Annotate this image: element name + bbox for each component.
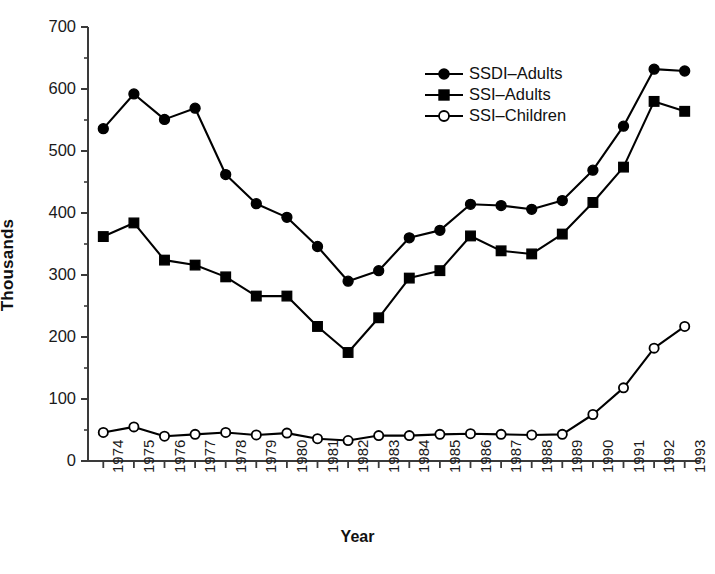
legend-marker-open-circle <box>424 107 464 125</box>
y-tick-label: 600 <box>30 79 76 98</box>
data-point <box>160 114 170 124</box>
y-tick-label: 500 <box>30 141 76 160</box>
data-point <box>435 430 444 439</box>
data-point <box>160 255 170 265</box>
data-point <box>496 246 506 256</box>
data-point <box>405 431 414 440</box>
legend-item: SSI–Children <box>424 105 566 126</box>
legend-marker-filled-circle <box>424 65 464 83</box>
x-tick-label: 1988 <box>538 440 555 473</box>
data-point <box>252 430 261 439</box>
data-point <box>374 313 384 323</box>
series-ssi-adults <box>99 97 690 358</box>
data-point <box>98 124 108 134</box>
x-tick-label: 1989 <box>568 440 585 473</box>
data-point <box>190 103 200 113</box>
data-point <box>650 344 659 353</box>
data-point <box>557 196 567 206</box>
legend-item: SSDI–Adults <box>424 63 566 84</box>
x-tick-label: 1975 <box>140 440 157 473</box>
x-axis-title: Year <box>0 528 715 546</box>
data-point <box>99 428 108 437</box>
data-point <box>619 383 628 392</box>
data-point <box>649 97 659 107</box>
x-tick-label: 1985 <box>446 440 463 473</box>
data-point <box>252 291 262 301</box>
legend-label-ssi-adults: SSI–Adults <box>469 84 551 105</box>
y-tick-label: 0 <box>30 451 76 470</box>
legend-marker-filled-square <box>424 86 464 104</box>
y-tick-label: 100 <box>30 389 76 408</box>
x-tick-label: 1974 <box>109 440 126 473</box>
series-ssdi-adults <box>98 64 689 286</box>
data-point <box>680 66 690 76</box>
data-series-layer <box>98 64 689 445</box>
data-point <box>496 201 506 211</box>
x-tick-label: 1993 <box>691 440 708 473</box>
y-tick-label: 400 <box>30 203 76 222</box>
data-point <box>680 322 689 331</box>
data-point <box>680 107 690 117</box>
data-point <box>435 266 445 276</box>
x-tick-label: 1990 <box>599 440 616 473</box>
y-tick-label: 300 <box>30 265 76 284</box>
data-point <box>527 430 536 439</box>
y-tick-label: 700 <box>30 17 76 36</box>
x-tick-label: 1978 <box>232 440 249 473</box>
data-point <box>405 273 415 283</box>
data-point <box>374 266 384 276</box>
data-point <box>374 431 383 440</box>
data-point <box>527 249 537 259</box>
series-ssi-children <box>99 322 690 445</box>
data-point <box>619 162 629 172</box>
data-point <box>527 204 537 214</box>
data-point <box>404 233 414 243</box>
legend-label-ssdi-adults: SSDI–Adults <box>469 63 563 84</box>
x-tick-label: 1987 <box>507 440 524 473</box>
data-point <box>129 89 139 99</box>
x-tick-label: 1992 <box>660 440 677 473</box>
x-tick-label: 1984 <box>415 440 432 473</box>
data-point <box>313 434 322 443</box>
x-tick-label: 1977 <box>201 440 218 473</box>
data-point <box>99 232 109 242</box>
figure-chart: Thousands Year 0100200300400500600700 19… <box>0 0 715 574</box>
data-point <box>466 231 476 241</box>
data-point <box>588 165 598 175</box>
x-tick-label: 1986 <box>477 440 494 473</box>
x-tick-label: 1982 <box>354 440 371 473</box>
data-point <box>282 291 292 301</box>
x-tick-label: 1979 <box>262 440 279 473</box>
data-point <box>588 410 597 419</box>
x-tick-label: 1976 <box>171 440 188 473</box>
data-point <box>435 225 445 235</box>
y-tick-label: 200 <box>30 327 76 346</box>
data-point <box>343 276 353 286</box>
data-point <box>129 422 138 431</box>
chart-legend: SSDI–Adults SSI–Adults SSI–Children <box>424 63 566 126</box>
legend-item: SSI–Adults <box>424 84 566 105</box>
data-point <box>129 218 139 228</box>
data-point <box>313 322 323 332</box>
x-tick-label: 1980 <box>293 440 310 473</box>
data-point <box>313 241 323 251</box>
data-point <box>558 430 567 439</box>
data-point <box>466 429 475 438</box>
data-point <box>221 428 230 437</box>
plot-area <box>0 0 715 574</box>
data-point <box>649 64 659 74</box>
data-point <box>282 212 292 222</box>
legend-label-ssi-children: SSI–Children <box>469 105 566 126</box>
x-tick-label: 1991 <box>630 440 647 473</box>
data-point <box>344 436 353 445</box>
data-point <box>343 348 353 358</box>
x-tick-label: 1981 <box>324 440 341 473</box>
data-point <box>191 430 200 439</box>
data-point <box>466 199 476 209</box>
x-tick-label: 1983 <box>385 440 402 473</box>
data-point <box>558 229 568 239</box>
data-point <box>160 432 169 441</box>
data-point <box>588 198 598 208</box>
data-point <box>221 272 231 282</box>
data-point <box>497 430 506 439</box>
